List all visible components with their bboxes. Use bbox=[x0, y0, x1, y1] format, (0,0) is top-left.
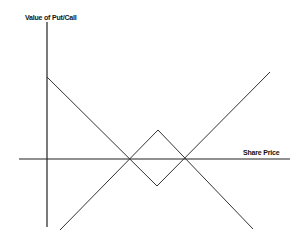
payoff-diagram: Value of Put/Call Share Price bbox=[0, 0, 306, 241]
put-payoff-line bbox=[47, 72, 270, 186]
x-axis-label: Share Price bbox=[243, 149, 279, 156]
call-payoff-line bbox=[60, 130, 253, 230]
diagram-svg bbox=[0, 0, 306, 241]
y-axis-label: Value of Put/Call bbox=[25, 14, 76, 21]
